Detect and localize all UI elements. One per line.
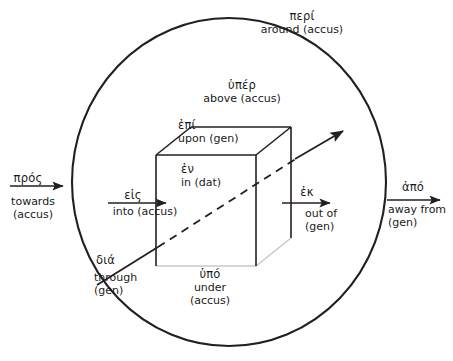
label-hypo-english-2: (accus)	[190, 295, 230, 308]
label-eis: into (accus)	[113, 206, 178, 219]
label-hypo-english-1: under	[190, 282, 230, 295]
label-peri: περί around (accus)	[261, 10, 343, 37]
label-hyper-english: above (accus)	[203, 93, 280, 106]
label-dia: through (gen)	[94, 272, 137, 298]
label-ek-greek: ἐκ	[300, 186, 313, 200]
label-hypo-greek: ὑπό	[190, 268, 230, 282]
label-hypo: ὑπό under (accus)	[190, 268, 230, 308]
cube-edges	[156, 127, 291, 266]
label-apo-greek-wrap: ἀπό	[402, 181, 424, 195]
label-epi-greek: ἐπί	[178, 119, 238, 133]
arrow-dia-dashed	[158, 158, 297, 247]
label-pros-english-2: (accus)	[11, 209, 55, 222]
label-hyper: ὑπέρ above (accus)	[203, 79, 280, 106]
label-eis-greek-wrap: εἰς	[124, 189, 141, 203]
arrow-dia-exit	[295, 131, 343, 159]
label-peri-greek: περί	[261, 10, 343, 24]
label-ek-greek-wrap: ἐκ	[300, 186, 313, 200]
label-dia-greek-wrap: διά	[96, 254, 115, 268]
label-eis-greek: εἰς	[124, 189, 141, 203]
greek-prepositions-diagram: περί around (accus) ὑπέρ above (accus) ἐ…	[0, 0, 453, 361]
label-ek-english-2: (gen)	[305, 221, 337, 234]
label-pros-greek-wrap: πρός	[14, 172, 43, 186]
label-ek: out of (gen)	[305, 208, 337, 234]
label-epi: ἐπί upon (gen)	[178, 119, 238, 146]
label-en-english: in (dat)	[181, 177, 221, 190]
label-epi-english: upon (gen)	[178, 133, 238, 146]
label-en-greek: ἐν	[181, 163, 221, 177]
label-en: ἐν in (dat)	[181, 163, 221, 190]
label-pros-greek: πρός	[14, 172, 43, 186]
label-apo-greek: ἀπό	[402, 181, 424, 195]
label-peri-english: around (accus)	[261, 24, 343, 37]
label-apo-english-2: (gen)	[388, 217, 446, 230]
label-pros: towards (accus)	[11, 196, 55, 222]
label-apo: away from (gen)	[388, 204, 446, 230]
cube-shadow-edges	[156, 238, 291, 266]
label-dia-greek: διά	[96, 254, 115, 268]
label-eis-english: into (accus)	[113, 206, 178, 219]
label-dia-english-2: (gen)	[94, 285, 137, 298]
label-hyper-greek: ὑπέρ	[203, 79, 280, 93]
